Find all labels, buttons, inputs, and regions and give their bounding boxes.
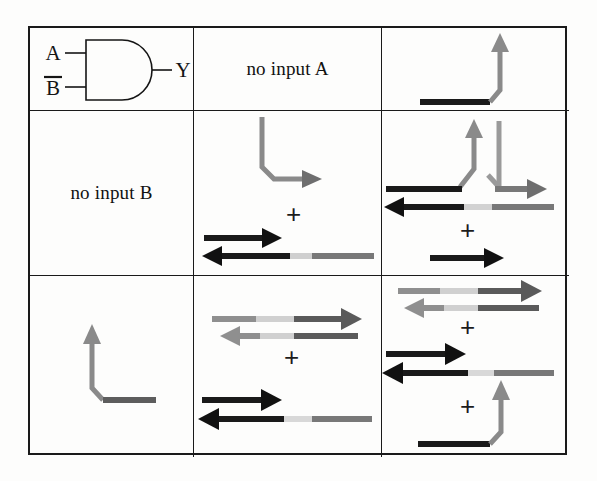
output-strand-svg [382, 28, 569, 111]
no-input-b-label: no input B [30, 182, 193, 204]
no-input-a-label: no input A [194, 58, 381, 80]
gray-right-arrowhead [302, 170, 322, 188]
input-b-label: B [46, 76, 60, 100]
cell-input-b-strand [30, 276, 194, 457]
cell-both-inputs-output: + + [382, 276, 569, 457]
black-right-arrowhead [445, 343, 466, 365]
gray-bent-strand [92, 338, 103, 400]
cell-input-a-complex: + [194, 111, 382, 276]
gray-right-arrowhead [527, 179, 547, 199]
cell-output-strand [382, 28, 569, 111]
gray-y-left-branch [460, 133, 474, 187]
input-a-reacted-svg [382, 111, 569, 276]
input-a-complex-svg [194, 111, 382, 276]
input-a-label: A [45, 41, 61, 65]
black-left-arrowhead [382, 362, 403, 384]
black-left-arrowhead [198, 408, 219, 430]
cell-no-input-b: no input B [30, 111, 194, 276]
gray-up-arrowhead [465, 119, 483, 138]
gray-bent-strand [490, 46, 500, 102]
gate-body-shape [86, 40, 152, 100]
gray-right-arrowhead [521, 280, 542, 302]
black-right-arrowhead [261, 389, 282, 411]
black-left-arrowhead [384, 197, 404, 217]
plus-symbol-upper: + [460, 314, 475, 340]
plus-symbol: + [284, 344, 299, 370]
cell-gate-definition: A B Y [30, 28, 194, 111]
cell-no-input-a: no input A [194, 28, 382, 111]
gray-up-arrowhead [491, 33, 509, 52]
truth-table-grid: A B Y no input A no input B [28, 26, 567, 455]
plus-symbol: + [286, 201, 301, 227]
plus-symbol-lower: + [460, 393, 475, 419]
gray-bent-strand [490, 394, 501, 444]
gray-left-arrowhead [404, 298, 424, 318]
gray-up-arrowhead [83, 324, 101, 344]
black-left-arrowhead [202, 246, 222, 266]
input-b-strand-svg [30, 276, 194, 457]
output-label: Y [175, 58, 190, 82]
gray-up-arrowhead [492, 380, 510, 400]
and-gate-svg: A B Y [38, 32, 194, 108]
gray-left-arrowhead [220, 326, 240, 346]
gray-bent-strand [262, 117, 306, 179]
black-right-arrowhead [262, 228, 282, 248]
and-gate-diagram: A B Y [30, 28, 193, 110]
plus-symbol: + [460, 217, 475, 243]
black-right-arrowhead [484, 248, 504, 268]
both-inputs-svg [382, 276, 569, 457]
gray-right-arrowhead [341, 308, 362, 330]
cell-input-a-reacted: + [382, 111, 569, 276]
cell-input-b-complex: + [194, 276, 382, 457]
